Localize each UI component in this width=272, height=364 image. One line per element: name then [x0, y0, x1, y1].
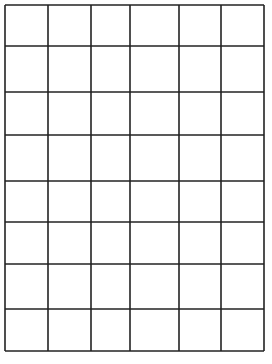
grid-cell	[91, 135, 130, 181]
grid-cell	[221, 309, 264, 351]
grid-cell	[91, 181, 130, 222]
grid-cell	[179, 222, 221, 264]
grid-cell	[221, 5, 264, 46]
grid-cell	[179, 309, 221, 351]
grid-cell	[130, 309, 179, 351]
grid-cell	[179, 135, 221, 181]
grid-cell	[130, 181, 179, 222]
grid-cell	[221, 264, 264, 309]
grid-cell	[5, 46, 48, 92]
grid-cell	[91, 264, 130, 309]
grid-cell	[130, 222, 179, 264]
grid-cell	[48, 5, 91, 46]
grid-cell	[48, 264, 91, 309]
grid-cell	[48, 46, 91, 92]
grid-cell	[130, 5, 179, 46]
grid-cell	[130, 135, 179, 181]
grid-cell	[130, 264, 179, 309]
grid-cell	[5, 92, 48, 135]
grid-cell	[221, 92, 264, 135]
grid-cell	[221, 222, 264, 264]
grid-cell	[5, 135, 48, 181]
grid-cell	[91, 309, 130, 351]
grid-cell	[221, 135, 264, 181]
grid-cell	[48, 309, 91, 351]
grid-cell	[179, 264, 221, 309]
grid-cell	[130, 92, 179, 135]
grid-cell	[179, 5, 221, 46]
grid-cell	[179, 92, 221, 135]
grid-cell	[221, 46, 264, 92]
grid-cell	[5, 5, 48, 46]
grid-cell	[48, 92, 91, 135]
grid-cell	[91, 222, 130, 264]
grid-cell	[179, 46, 221, 92]
grid-cell	[5, 264, 48, 309]
grid-cell	[5, 222, 48, 264]
grid-cell	[91, 92, 130, 135]
grid-cell	[5, 181, 48, 222]
grid-cell	[48, 222, 91, 264]
grid-cell	[91, 46, 130, 92]
grid-cell	[130, 46, 179, 92]
grid-cell	[5, 309, 48, 351]
empty-grid	[0, 0, 272, 364]
grid-cell	[48, 135, 91, 181]
grid-cell	[91, 5, 130, 46]
grid-cell	[221, 181, 264, 222]
grid-cell	[179, 181, 221, 222]
grid-cell	[48, 181, 91, 222]
